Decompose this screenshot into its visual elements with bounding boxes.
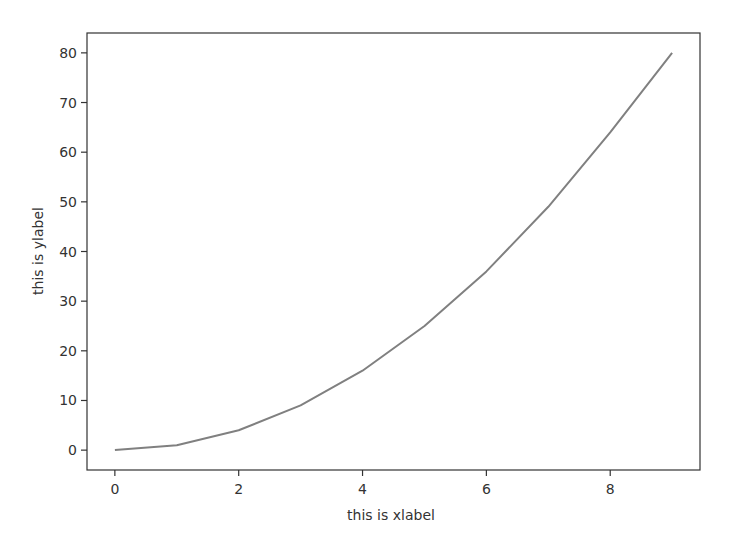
x-axis-ticks: 02468 — [110, 470, 614, 497]
y-tick-label: 10 — [59, 392, 77, 408]
x-tick-label: 8 — [606, 481, 615, 497]
x-tick-label: 2 — [234, 481, 243, 497]
y-tick-label: 50 — [59, 194, 77, 210]
y-tick-label: 60 — [59, 144, 77, 160]
y-tick-label: 70 — [59, 95, 77, 111]
y-axis-label: this is ylabel — [30, 207, 46, 295]
data-line — [115, 53, 672, 450]
axes-frame — [87, 33, 700, 470]
y-tick-label: 20 — [59, 343, 77, 359]
y-tick-label: 40 — [59, 244, 77, 260]
x-axis-label: this is xlabel — [347, 507, 435, 523]
y-axis-ticks: 01020304050607080 — [59, 45, 87, 458]
line-chart: 01020304050607080 02468 this is xlabel t… — [0, 0, 735, 541]
y-tick-label: 80 — [59, 45, 77, 61]
y-tick-label: 0 — [68, 442, 77, 458]
x-tick-label: 0 — [110, 481, 119, 497]
x-tick-label: 4 — [358, 481, 367, 497]
y-tick-label: 30 — [59, 293, 77, 309]
x-tick-label: 6 — [482, 481, 491, 497]
